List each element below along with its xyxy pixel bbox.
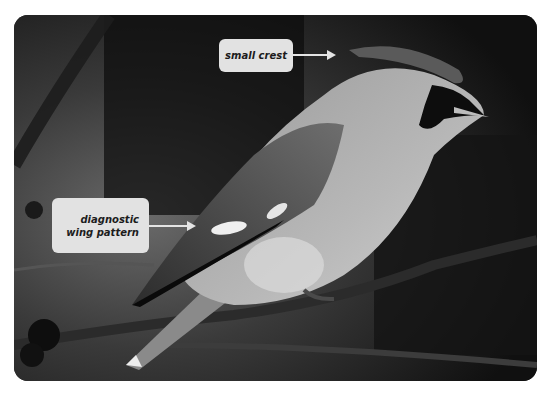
arrowhead-icon xyxy=(327,50,336,60)
crest-arrow-icon xyxy=(293,54,329,56)
arrowhead-icon xyxy=(187,221,196,231)
wing-arrow-icon xyxy=(149,225,189,227)
wing-callout-label: diagnostic wing pattern xyxy=(52,213,139,239)
wing-callout: diagnostic wing pattern xyxy=(52,198,149,253)
crest-callout-label: small crest xyxy=(225,49,287,62)
crest-callout: small crest xyxy=(219,39,293,72)
